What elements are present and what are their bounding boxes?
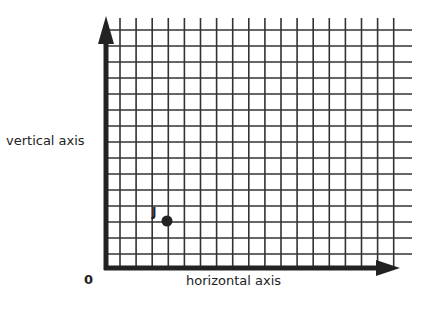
point-j-label: J [152,205,156,219]
coordinate-grid [0,0,438,309]
vertical-axis-label: vertical axis [6,133,85,148]
point-j-marker [162,216,173,227]
horizontal-axis-label: horizontal axis [186,273,281,288]
vertical-axis [98,16,114,270]
right-arrow-icon [376,260,400,276]
origin-label: 0 [84,272,93,287]
grid-lines [106,18,412,268]
